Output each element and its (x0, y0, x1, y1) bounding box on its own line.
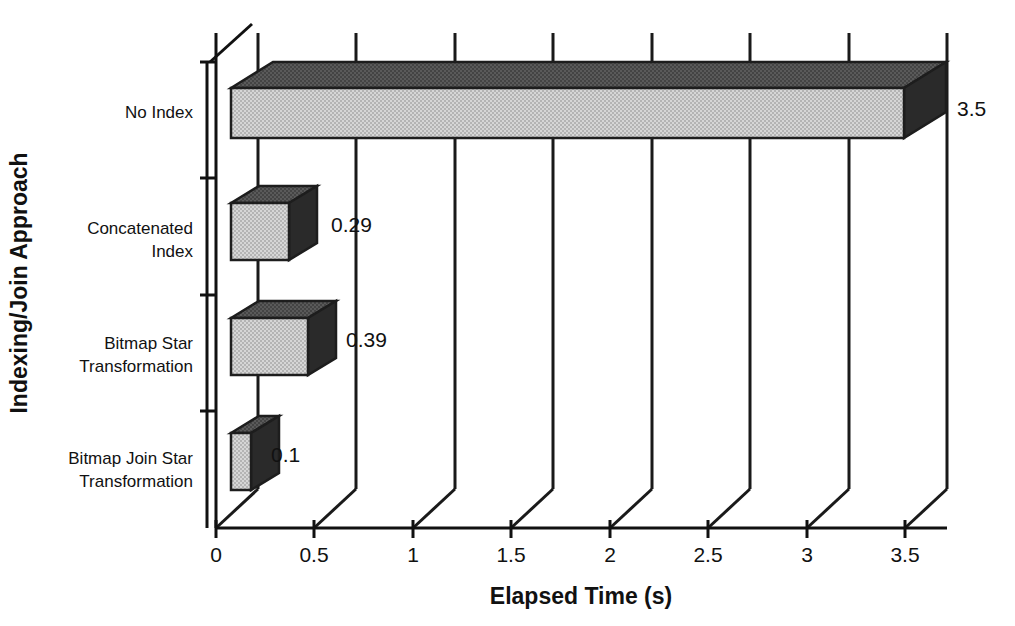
x-tick-label-7: 3.5 (890, 543, 919, 566)
y-tick-label-bitmap-join-star-transformation: Bitmap Join Star Transformation (68, 449, 193, 491)
bar-no-index (231, 62, 946, 138)
svg-text:Concatenated: Concatenated (87, 219, 193, 238)
x-axis-title: Elapsed Time (s) (490, 583, 672, 609)
svg-text:Transformation: Transformation (79, 357, 193, 376)
y-axis-title: Indexing/Join Approach (6, 152, 32, 413)
x-tick-label-5: 2.5 (693, 543, 722, 566)
x-tick-label-1: 0.5 (299, 543, 328, 566)
x-tick-label-4: 2 (604, 543, 616, 566)
value-label-bitmap-join-star-transformation: 0.1 (271, 443, 300, 466)
bar-concatenated-index (231, 186, 317, 260)
svg-text:Bitmap Star: Bitmap Star (104, 334, 193, 353)
y-tick-label-concatenated-index: Concatenated Index (87, 219, 193, 261)
x-tick-label-2: 1 (407, 543, 419, 566)
chart-container: 3.5 0.29 0.39 0.1 0 0.5 1 1.5 2 2.5 3 3.… (0, 0, 1015, 626)
svg-text:Index: Index (151, 242, 193, 261)
x-axis (216, 520, 947, 538)
x-tick-label-0: 0 (210, 543, 222, 566)
bar-bitmap-star-transformation (231, 301, 336, 375)
svg-text:Bitmap Join Star: Bitmap Join Star (68, 449, 193, 468)
value-label-no-index: 3.5 (957, 97, 986, 120)
x-tick-label-3: 1.5 (496, 543, 525, 566)
svg-text:No Index: No Index (125, 103, 194, 122)
value-label-bitmap-star-transformation: 0.39 (346, 328, 387, 351)
x-tick-label-6: 3 (801, 543, 813, 566)
value-label-concatenated-index: 0.29 (331, 213, 372, 236)
y-tick-label-no-index: No Index (125, 103, 194, 122)
y-tick-label-bitmap-star-transformation: Bitmap Star Transformation (79, 334, 193, 376)
bar-chart-3d: 3.5 0.29 0.39 0.1 0 0.5 1 1.5 2 2.5 3 3.… (0, 0, 1015, 626)
svg-text:Transformation: Transformation (79, 472, 193, 491)
